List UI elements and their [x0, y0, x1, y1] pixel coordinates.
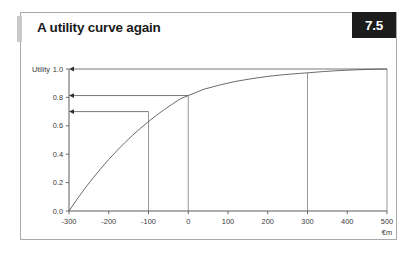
arrow-to-utility-0-70-head	[69, 109, 74, 114]
figure-title: A utility curve again	[37, 20, 161, 35]
y-axis-label: Utility	[32, 65, 50, 74]
utility-curve-line-0	[69, 69, 387, 211]
figure-box: A utility curve again 7.5 0.00.20.40.60.…	[20, 12, 397, 240]
utility-curve-chart: 0.00.20.40.60.81.0-300-200-1000100200300…	[21, 43, 398, 239]
x-tick-label-4: 100	[222, 217, 234, 226]
x-tick-label-1: -200	[101, 217, 116, 226]
x-tick-label-7: 400	[341, 217, 353, 226]
x-tick-label-6: 300	[301, 217, 313, 226]
chart-plot-area: 0.00.20.40.60.81.0-300-200-1000100200300…	[21, 43, 398, 239]
x-tick-label-5: 200	[262, 217, 274, 226]
y-tick-label-0: 0.0	[53, 207, 63, 216]
y-tick-label-5: 1.0	[53, 65, 63, 74]
x-tick-label-0: -300	[62, 217, 77, 226]
arrow-to-utility-1-0-head	[69, 67, 74, 72]
figure-number-badge: 7.5	[352, 12, 396, 38]
y-tick-label-1: 0.2	[53, 178, 63, 187]
y-tick-label-4: 0.8	[53, 93, 63, 102]
figure-header: A utility curve again 7.5	[21, 13, 396, 47]
x-tick-label-8: 500	[381, 217, 393, 226]
x-tick-label-2: -100	[141, 217, 156, 226]
x-tick-label-3: 0	[186, 217, 190, 226]
y-tick-label-2: 0.4	[53, 150, 63, 159]
arrow-to-utility-0-81-head	[69, 93, 74, 98]
x-axis-label: €m	[382, 228, 392, 237]
y-tick-label-3: 0.6	[53, 121, 63, 130]
